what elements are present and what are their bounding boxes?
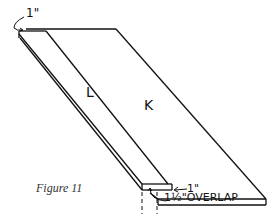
board-k-label: K: [144, 97, 154, 113]
board-l-label: L: [86, 84, 94, 100]
top-dimension-label: 1": [26, 6, 39, 20]
overlap-dimension-label: 1½"OVERLAP: [164, 191, 238, 204]
board-k: [26, 29, 266, 205]
figure-caption: Figure 11: [36, 181, 82, 196]
top-dimension-callout: [14, 17, 24, 31]
overlap-guides: [142, 192, 157, 214]
